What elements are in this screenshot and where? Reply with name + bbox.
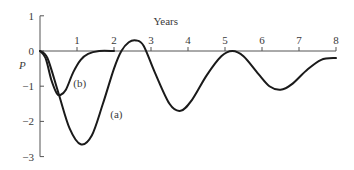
y-tick-label: 1 [29, 10, 35, 22]
y-axis-title: P [18, 59, 26, 71]
y-tick-label: −2 [22, 115, 34, 127]
curves [40, 40, 336, 144]
x-tick-label: 6 [259, 34, 265, 46]
y-tick-label: −1 [22, 80, 34, 92]
x-axis-title: Years [154, 15, 179, 27]
x-tick-label: 1 [74, 34, 80, 46]
y-tick-label: 0 [29, 45, 35, 57]
x-tick-label: 3 [148, 34, 154, 46]
y-tick-label: −3 [22, 151, 34, 163]
curve-label: (b) [73, 77, 86, 90]
chart: 10−1−2−312345678YearsP(a)(b) [0, 0, 354, 170]
x-tick-label: 8 [333, 34, 339, 46]
curve-b [40, 51, 114, 96]
x-tick-label: 2 [111, 34, 117, 46]
curve-label: (a) [110, 108, 123, 121]
x-tick-label: 5 [222, 34, 228, 46]
x-tick-label: 7 [296, 34, 302, 46]
x-tick-label: 4 [185, 34, 191, 46]
labels: 10−1−2−312345678YearsP(a)(b) [18, 10, 339, 163]
